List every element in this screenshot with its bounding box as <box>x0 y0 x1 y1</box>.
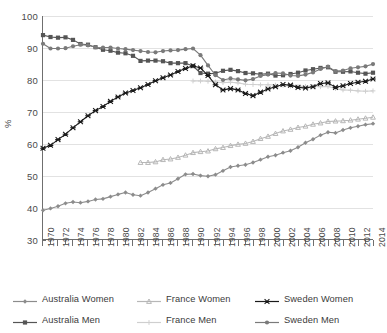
legend-label: France Men <box>166 315 217 325</box>
data-point-marker <box>341 88 346 93</box>
data-point-marker <box>146 59 150 63</box>
data-point-marker <box>370 77 376 82</box>
data-point-marker <box>250 93 256 98</box>
data-point-marker <box>115 95 121 100</box>
data-point-marker <box>281 71 285 75</box>
data-point-marker <box>243 78 247 82</box>
y-tick-label: 50 <box>12 171 38 182</box>
x-tick-label: 1998 <box>257 227 267 247</box>
data-point-marker <box>356 88 361 93</box>
series-line <box>141 117 373 162</box>
data-point-marker <box>243 91 249 96</box>
data-point-marker <box>264 299 270 304</box>
x-tick-label: 2004 <box>302 227 312 247</box>
data-point-marker <box>153 50 157 54</box>
legend-item-france-men[interactable]: France Men <box>136 314 254 325</box>
data-point-marker <box>183 66 189 71</box>
data-point-marker <box>371 62 375 66</box>
data-point-marker <box>130 88 136 93</box>
x-tick-mark <box>373 240 374 246</box>
data-point-marker <box>363 122 367 126</box>
data-point-marker <box>131 54 135 58</box>
data-point-marker <box>198 53 202 57</box>
data-point-marker <box>191 79 196 84</box>
data-point-marker <box>363 89 368 94</box>
data-point-marker <box>161 49 165 53</box>
data-point-marker <box>153 59 157 63</box>
data-point-marker <box>123 51 127 55</box>
legend-item-france-women[interactable]: France Women <box>136 293 254 304</box>
y-tick-label: 30 <box>12 235 38 246</box>
series-line <box>43 124 373 211</box>
legend-item-sweden-women[interactable]: Sweden Women <box>254 293 372 304</box>
data-point-marker <box>40 146 46 151</box>
data-point-marker <box>191 172 195 176</box>
data-point-marker <box>228 165 232 169</box>
data-point-marker <box>311 137 315 141</box>
data-point-marker <box>146 50 150 54</box>
data-point-marker <box>101 197 105 201</box>
x-tick-label: 1972 <box>61 227 71 247</box>
x-tick-label: 1996 <box>242 227 252 247</box>
data-point-marker <box>131 48 135 52</box>
data-point-marker <box>198 66 204 71</box>
x-tick-mark <box>283 240 284 246</box>
data-point-marker <box>78 200 82 204</box>
data-point-marker <box>145 82 151 87</box>
data-point-marker <box>251 160 255 164</box>
x-tick-label: 2002 <box>287 227 297 247</box>
data-point-marker <box>147 320 152 325</box>
data-point-marker <box>71 200 75 204</box>
data-point-marker <box>153 78 159 83</box>
data-point-marker <box>273 153 277 157</box>
data-point-marker <box>288 73 292 77</box>
data-point-marker <box>198 173 202 177</box>
data-point-marker <box>251 77 255 81</box>
chart-legend: Australia WomenFrance WomenSweden WomenA… <box>12 288 372 330</box>
data-point-marker <box>138 160 143 164</box>
data-point-marker <box>236 164 240 168</box>
data-point-marker <box>206 63 210 67</box>
data-point-marker <box>266 82 271 87</box>
data-point-marker <box>326 130 330 134</box>
series-sweden-women <box>40 63 376 150</box>
data-point-marker <box>108 99 114 104</box>
x-tick-mark <box>328 240 329 246</box>
series-australia-men <box>41 33 375 78</box>
data-point-marker <box>63 46 67 50</box>
data-point-marker <box>23 299 27 303</box>
data-point-marker <box>48 46 52 50</box>
data-point-marker <box>41 33 45 37</box>
data-point-marker <box>23 320 27 324</box>
legend-item-australia-women[interactable]: Australia Women <box>12 293 136 304</box>
data-point-marker <box>123 190 127 194</box>
series-australia-women <box>41 121 375 212</box>
series-line <box>43 35 373 75</box>
data-point-marker <box>108 194 112 198</box>
data-point-marker <box>251 71 255 75</box>
data-point-marker <box>183 47 187 51</box>
data-point-marker <box>236 77 240 81</box>
legend-marker-star-icon <box>254 293 280 304</box>
x-tick-label: 2000 <box>272 227 282 247</box>
data-point-marker <box>168 61 172 65</box>
legend-label: Sweden Women <box>284 294 353 304</box>
data-point-marker <box>78 119 84 124</box>
data-point-marker <box>258 90 264 95</box>
data-point-marker <box>243 71 247 75</box>
legend-label: France Women <box>166 294 231 304</box>
legend-item-australia-men[interactable]: Australia Men <box>12 314 136 325</box>
data-point-marker <box>371 115 376 119</box>
data-point-marker <box>56 36 60 40</box>
legend-item-sweden-men[interactable]: Sweden Men <box>254 314 372 325</box>
data-point-marker <box>161 183 165 187</box>
data-point-marker <box>371 88 376 93</box>
x-tick-mark <box>162 240 163 246</box>
data-point-marker <box>220 88 226 93</box>
data-point-marker <box>55 137 61 142</box>
data-point-marker <box>228 68 232 72</box>
data-point-marker <box>176 61 180 65</box>
legend-marker-triangle-icon <box>136 293 162 304</box>
data-point-marker <box>153 186 157 190</box>
